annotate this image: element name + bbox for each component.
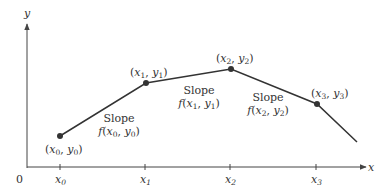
slope-label-1: Slope f(x1, y1) [177,84,220,111]
tick-label-x0: x0 [55,173,66,187]
point-0 [57,133,63,139]
y-axis-label: y [23,7,31,20]
slope-label-2: Slope f(x2, y2) [246,91,289,118]
svg-text:f(x2, y2): f(x2, y2) [246,104,289,118]
point-label-0: (x0, y0) [45,143,83,157]
svg-text:Slope: Slope [252,91,283,104]
slope-label-0: Slope f(x0, y0) [97,112,140,139]
point-label-2: (x2, y2) [216,52,254,66]
svg-text:Slope: Slope [183,84,214,97]
point-label-3: (x3, y3) [311,87,349,101]
svg-text:f(x0, y0): f(x0, y0) [97,125,140,139]
svg-text:f(x1, y1): f(x1, y1) [177,97,220,111]
euler-method-diagram: y x 0 x0 x1 x2 x3 (x0, y0) (x1, y1) (x2,… [0,0,389,192]
point-1 [143,80,149,86]
point-label-1: (x1, y1) [130,66,168,80]
svg-text:Slope: Slope [103,112,134,125]
tick-label-x1: x1 [140,173,151,187]
tick-label-x2: x2 [225,173,236,187]
tick-label-x3: x3 [311,173,322,187]
x-axis-label: x [368,161,375,174]
point-2 [228,66,234,72]
origin-label: 0 [16,173,23,186]
point-3 [314,101,320,107]
